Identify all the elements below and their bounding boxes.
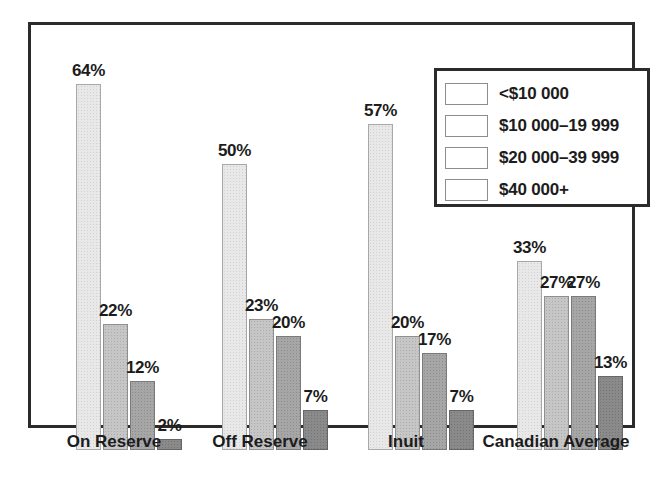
bar-slot: 64% [76, 50, 101, 450]
x-axis-label-canadian-average: Canadian Average [466, 432, 646, 452]
x-axis-label-inuit: Inuit [326, 432, 486, 452]
bar-slot: 50% [222, 50, 247, 450]
legend-item-label: <$10 000 [499, 84, 569, 104]
bar-value-label: 57% [364, 101, 397, 121]
bar[interactable] [76, 84, 101, 450]
legend-item-label: $40 000+ [499, 180, 569, 200]
chart-legend: <$10 000 $10 000–19 999 $20 000–39 999 $… [434, 68, 650, 207]
bar-slot: 20% [276, 50, 301, 450]
bar-slot: 20% [395, 50, 420, 450]
legend-item: $40 000+ [445, 174, 647, 205]
bar-chart-figure: 64%22%12%2%50%23%20%7%57%20%17%7%33%27%2… [0, 0, 660, 481]
bar-value-label: 64% [72, 61, 105, 81]
legend-item-label: $10 000–19 999 [499, 116, 619, 136]
bar-value-label: 22% [99, 301, 132, 321]
legend-item-label: $20 000–39 999 [499, 148, 619, 168]
bar-value-label: 27% [567, 273, 600, 293]
bar[interactable] [368, 124, 393, 450]
bar-value-label: 33% [513, 238, 546, 258]
bar[interactable] [249, 319, 274, 450]
bar-slot: 23% [249, 50, 274, 450]
bar[interactable] [544, 296, 569, 450]
bar-value-label: 7% [304, 387, 328, 407]
bar-slot: 2% [157, 50, 182, 450]
bar-value-label: 17% [418, 330, 451, 350]
bar-value-label: 12% [126, 358, 159, 378]
legend-swatch-icon [445, 115, 488, 137]
legend-item: $20 000–39 999 [445, 142, 647, 173]
plot-frame: 64%22%12%2%50%23%20%7%57%20%17%7%33%27%2… [28, 22, 635, 428]
legend-swatch-icon [445, 179, 488, 201]
x-axis-label-off-reserve: Off Reserve [180, 432, 340, 452]
bar-value-label: 7% [450, 387, 474, 407]
legend-swatch-icon [445, 147, 488, 169]
bar-slot: 22% [103, 50, 128, 450]
bar-slot: 7% [303, 50, 328, 450]
x-axis-label-on-reserve: On Reserve [34, 432, 194, 452]
bar-value-label: 13% [594, 353, 627, 373]
bar[interactable] [222, 164, 247, 450]
legend-item: $10 000–19 999 [445, 110, 647, 141]
bar-slot: 57% [368, 50, 393, 450]
bar-value-label: 20% [272, 313, 305, 333]
bar[interactable] [517, 261, 542, 450]
legend-swatch-icon [445, 83, 488, 105]
bar-value-label: 50% [218, 141, 251, 161]
bar[interactable] [571, 296, 596, 450]
bar-slot: 12% [130, 50, 155, 450]
legend-item: <$10 000 [445, 78, 647, 109]
